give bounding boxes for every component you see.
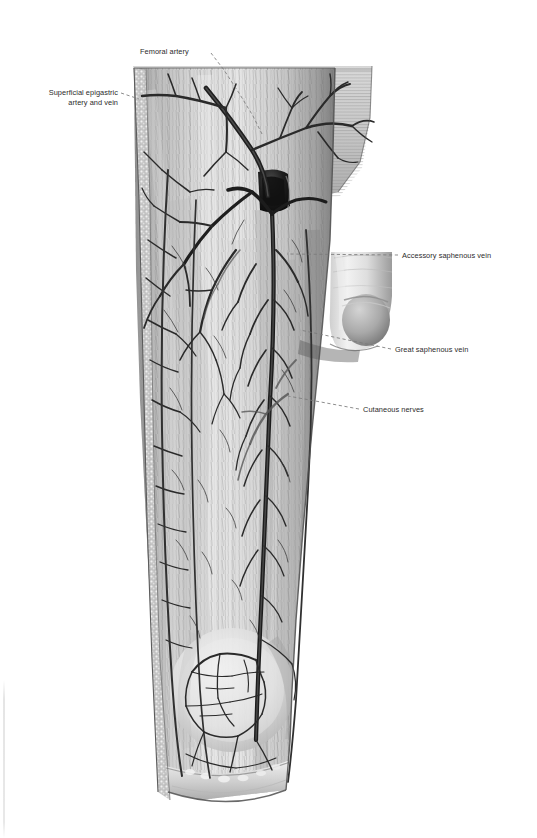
- label-great-saphenous-vein: Great saphenous vein: [395, 345, 468, 355]
- label-femoral-artery: Femoral artery: [140, 47, 189, 57]
- anatomy-figure: [0, 0, 537, 838]
- label-superficial-epigastric: Superficial epigastric artery and vein: [28, 88, 118, 107]
- page-gutter-line: [3, 680, 5, 838]
- label-accessory-saphenous-vein: Accessory saphenous vein: [402, 251, 491, 261]
- label-cutaneous-nerves: Cutaneous nerves: [363, 405, 424, 415]
